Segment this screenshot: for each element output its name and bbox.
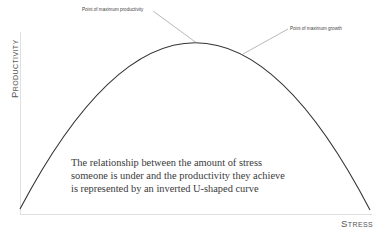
x-axis-label-rest: TRESS bbox=[348, 221, 373, 228]
annotation-max-growth: Point of maximum growth bbox=[290, 26, 342, 31]
x-axis-label-initial: S bbox=[341, 218, 348, 229]
diagram-canvas bbox=[0, 0, 384, 235]
caption-line: The relationship between the amount of s… bbox=[71, 156, 341, 169]
caption-line: someone is under and the productivity th… bbox=[71, 169, 341, 182]
diagram: Point of maximum productivity Point of m… bbox=[0, 0, 384, 235]
y-axis-label-initial: P bbox=[9, 91, 20, 98]
leader-line-max-productivity bbox=[153, 11, 196, 43]
y-axis-label: PRODUCTIVITY bbox=[9, 39, 20, 98]
caption: The relationship between the amount of s… bbox=[71, 156, 341, 195]
y-axis-label-rest: RODUCTIVITY bbox=[12, 39, 19, 91]
x-axis-label: STRESS bbox=[341, 218, 373, 229]
caption-line: is represented by an inverted U-shaped c… bbox=[71, 182, 341, 195]
leader-line-max-growth bbox=[243, 29, 288, 54]
annotation-max-productivity: Point of maximum productivity bbox=[82, 7, 143, 12]
